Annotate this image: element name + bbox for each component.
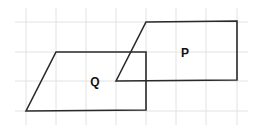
label-p: P xyxy=(181,46,189,60)
grid-lines xyxy=(15,8,248,125)
label-q: Q xyxy=(90,75,99,89)
grid-diagram: Q P xyxy=(0,0,260,135)
